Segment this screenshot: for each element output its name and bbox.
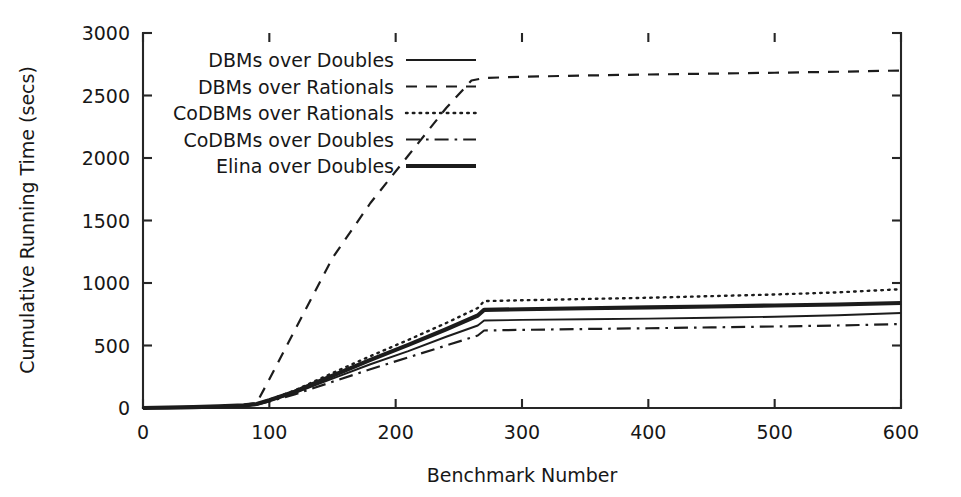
- y-tick-label: 2500: [82, 85, 130, 107]
- y-tick-label: 500: [94, 335, 130, 357]
- legend-label: DBMs over Rationals: [198, 76, 394, 98]
- x-tick-label: 0: [137, 421, 149, 443]
- y-tick-labels: 050010001500200025003000: [82, 22, 130, 419]
- series-line: [143, 303, 901, 408]
- series-line: [143, 324, 901, 408]
- y-tick-label: 1000: [82, 272, 130, 294]
- x-tick-label: 200: [378, 421, 414, 443]
- y-tick-label: 0: [118, 397, 130, 419]
- series-line: [143, 313, 901, 408]
- x-tick-label: 300: [504, 421, 540, 443]
- legend-label: Elina over Doubles: [216, 155, 394, 177]
- x-tick-label: 500: [757, 421, 793, 443]
- y-tick-label: 3000: [82, 22, 130, 44]
- legend-label: DBMs over Doubles: [208, 49, 394, 71]
- chart-figure: 050010001500200025003000 010020030040050…: [0, 0, 961, 497]
- chart-svg: 050010001500200025003000 010020030040050…: [0, 0, 961, 497]
- legend-label: CoDBMs over Rationals: [173, 102, 394, 124]
- x-axis-title: Benchmark Number: [427, 464, 618, 486]
- chart-legend: DBMs over DoublesDBMs over RationalsCoDB…: [173, 49, 476, 177]
- x-tick-labels: 0100200300400500600: [137, 421, 919, 443]
- y-axis-title: Cumulative Running Time (secs): [16, 66, 38, 374]
- x-tick-label: 100: [251, 421, 287, 443]
- legend-label: CoDBMs over Doubles: [183, 129, 394, 151]
- y-tick-label: 1500: [82, 210, 130, 232]
- x-tick-label: 600: [883, 421, 919, 443]
- x-tick-label: 400: [630, 421, 666, 443]
- y-tick-label: 2000: [82, 147, 130, 169]
